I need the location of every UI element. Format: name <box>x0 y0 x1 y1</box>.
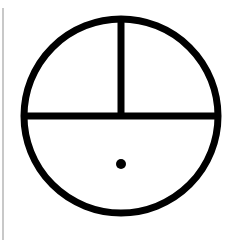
circle-symbol-diagram <box>0 0 237 241</box>
center-dot <box>116 159 126 169</box>
